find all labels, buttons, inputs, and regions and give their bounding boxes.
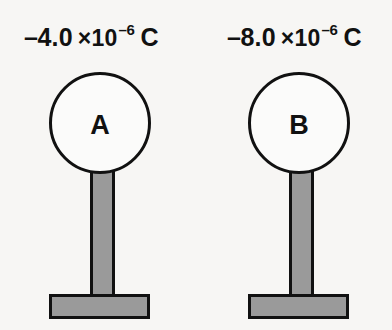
stand-base-b — [248, 294, 349, 319]
insulating-pole-b — [289, 166, 314, 294]
charge-exponent-a: –6 — [118, 21, 134, 38]
charge-sign-b: – — [227, 23, 240, 51]
charge-mantissa-a: 4.0 — [37, 23, 72, 51]
charged-sphere-b: B — [248, 72, 350, 174]
charge-mantissa-b: 8.0 — [240, 23, 275, 51]
charged-sphere-a: A — [49, 72, 151, 174]
charge-label-b: –8.0×10–6C — [227, 24, 362, 50]
charge-times-a: ×10 — [73, 25, 119, 51]
charge-label-a: –4.0×10–6C — [24, 24, 159, 50]
sphere-letter-b: B — [251, 75, 347, 171]
physics-diagram: –4.0×10–6C –8.0×10–6C A B — [0, 0, 392, 330]
apparatus-b: B — [247, 72, 351, 322]
stand-base-a — [49, 294, 150, 319]
charge-unit-b: C — [337, 23, 361, 51]
insulating-pole-a — [90, 166, 115, 294]
charge-unit-a: C — [134, 23, 158, 51]
charge-exponent-b: –6 — [321, 21, 337, 38]
charge-times-b: ×10 — [276, 25, 322, 51]
charge-sign-a: – — [24, 23, 37, 51]
sphere-letter-a: A — [52, 75, 148, 171]
apparatus-a: A — [48, 72, 152, 322]
